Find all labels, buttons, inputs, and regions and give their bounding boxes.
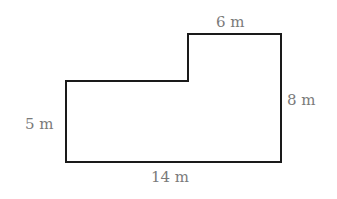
right-height-label: 8 m bbox=[287, 93, 316, 108]
left-height-label: 5 m bbox=[25, 117, 54, 132]
bottom-width-label: 14 m bbox=[151, 170, 189, 185]
diagram-canvas: 6 m 8 m 5 m 14 m bbox=[0, 0, 337, 199]
top-width-label: 6 m bbox=[216, 15, 245, 30]
l-shaped-polygon bbox=[66, 34, 281, 162]
